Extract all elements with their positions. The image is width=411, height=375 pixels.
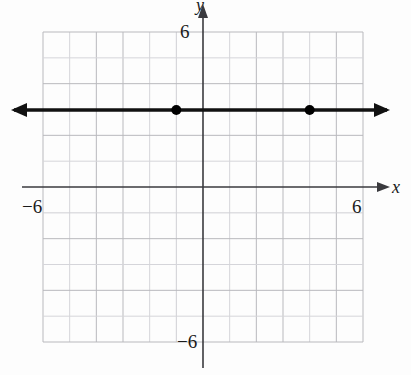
coordinate-plane-figure: 6 −6 −6 6 x y <box>0 0 411 375</box>
axes <box>22 4 390 368</box>
line-arrow-left <box>11 103 27 117</box>
y-axis-name-label: y <box>196 0 204 14</box>
x-axis-tick-label-positive-6: 6 <box>352 197 362 216</box>
x-axis-name-label: x <box>392 178 400 196</box>
plotted-point-1 <box>171 105 181 115</box>
x-axis-tick-label-negative-6: −6 <box>22 197 42 216</box>
y-axis <box>198 4 208 368</box>
line-arrow-right <box>374 103 390 117</box>
x-axis <box>22 182 390 192</box>
y-axis-tick-label-positive-6: 6 <box>180 22 190 41</box>
plotted-point-2 <box>305 105 315 115</box>
y-axis-tick-label-negative-6: −6 <box>177 332 197 351</box>
plotted-line-y-equals-3 <box>11 103 390 117</box>
graph-canvas <box>0 0 411 375</box>
